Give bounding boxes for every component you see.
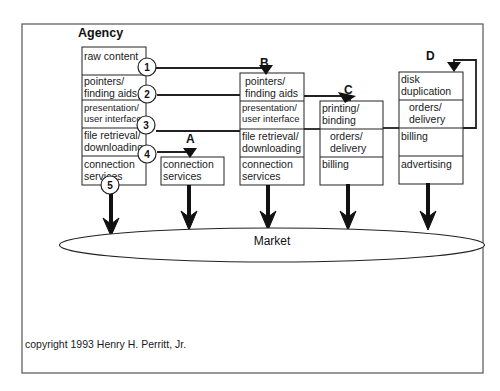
box-a: connection services A (161, 132, 224, 185)
agency-cell-pointers-l2: finding aids (84, 87, 137, 99)
agency-cell-pointers-l1: pointers/ (84, 75, 124, 87)
agency-title: Agency (78, 26, 123, 40)
box-d-label: D (426, 49, 435, 63)
box-c-printing-l1: printing/ (322, 102, 359, 114)
marker-3: 3 (137, 116, 155, 134)
box-b-presentation-l2: user interface (242, 113, 300, 124)
box-d-orders-l1: orders/ (409, 101, 442, 113)
box-b: pointers/ finding aids presentation/ use… (240, 56, 304, 185)
box-c-orders-l2: delivery (330, 142, 367, 154)
box-c-orders-l1: orders/ (330, 130, 363, 142)
marker-1: 1 (138, 58, 156, 76)
agency-cell-presentation-l1: presentation/ (84, 102, 139, 113)
box-d-billing: billing (401, 130, 428, 142)
box-a-connection-l1: connection (163, 158, 214, 170)
market-label: Market (254, 234, 291, 248)
box-d-orders-l2: delivery (409, 113, 446, 125)
agency-cell-presentation-l2: user interface (84, 113, 142, 124)
box-b-pointers-l1: pointers/ (245, 75, 285, 87)
flow-4-to-a (157, 152, 190, 157)
box-b-connection-l1: connection (242, 158, 293, 170)
box-b-file-retrieval-l1: file retrieval/ (242, 130, 299, 142)
agency-cell-file-retrieval-l1: file retrieval/ (84, 129, 141, 141)
marker-4: 4 (138, 145, 156, 163)
box-b-pointers-l2: finding aids (245, 87, 298, 99)
agency-cell-file-retrieval-l2: downloading (84, 141, 143, 153)
box-b-file-retrieval-l2: downloading (242, 142, 301, 154)
svg-text:3: 3 (143, 120, 149, 131)
svg-text:5: 5 (107, 180, 113, 191)
box-d-disk-l2: duplication (401, 85, 451, 97)
value-chain-diagram: Agency raw content pointers/ finding aid… (0, 0, 500, 391)
box-a-connection-l2: services (163, 170, 202, 182)
agency-cell-connection-l1: connection (84, 158, 135, 170)
marker-2: 2 (138, 85, 156, 103)
copyright-text: copyright 1993 Henry H. Perritt, Jr. (25, 338, 186, 350)
svg-text:4: 4 (144, 149, 150, 160)
box-d-disk-l1: disk (401, 73, 420, 85)
agency-box: raw content pointers/ finding aids prese… (82, 47, 146, 185)
box-c-printing-l2: binding (322, 114, 356, 126)
arrowhead-icon (447, 62, 461, 72)
box-d-advertising: advertising (401, 158, 452, 170)
marker-5: 5 (101, 176, 119, 194)
box-b-connection-l2: services (242, 170, 281, 182)
box-a-label: A (186, 132, 195, 146)
agency-cell-raw-content: raw content (84, 50, 138, 62)
svg-text:1: 1 (144, 62, 150, 73)
box-c-billing: billing (322, 158, 349, 170)
flow-1-to-b (155, 68, 266, 73)
svg-text:2: 2 (144, 89, 150, 100)
box-b-presentation-l1: presentation/ (242, 102, 297, 113)
